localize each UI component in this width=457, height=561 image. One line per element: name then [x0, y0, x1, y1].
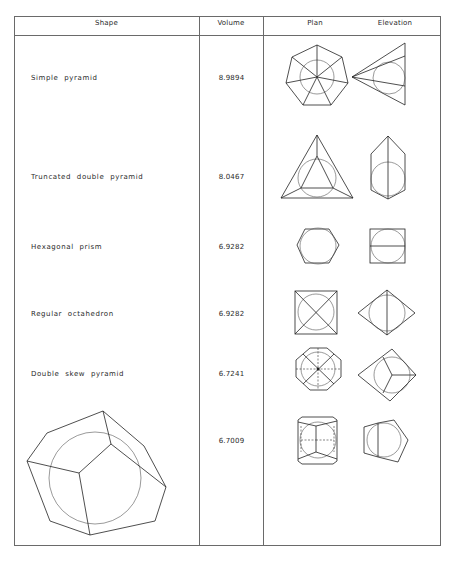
- double-skew-pyramid-plan-drawing: [296, 348, 341, 390]
- drawings-layer: [0, 0, 457, 561]
- final-shape-plan-drawing: [298, 417, 337, 464]
- truncated-double-pyramid-plan-drawing: [281, 135, 353, 198]
- final-shape-elevation-drawing: [364, 420, 408, 462]
- hexagonal-prism-elevation-drawing: [370, 229, 405, 263]
- regular-octahedron-elevation-drawing: [358, 290, 415, 335]
- simple-pyramid-elevation-drawing: [352, 43, 405, 105]
- hexagonal-prism-plan-drawing: [297, 228, 339, 264]
- double-skew-pyramid-elevation-drawing: [358, 349, 416, 401]
- final-shape-large-drawing: [27, 411, 166, 535]
- regular-octahedron-plan-drawing: [295, 291, 337, 334]
- truncated-double-pyramid-elevation-drawing: [371, 136, 405, 199]
- simple-pyramid-plan-drawing: [286, 45, 348, 105]
